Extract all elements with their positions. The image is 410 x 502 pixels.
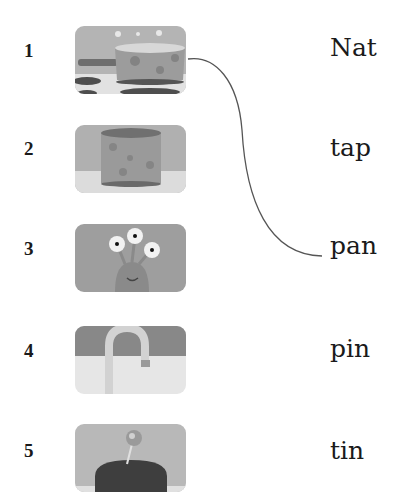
match-line-1-pan (0, 0, 410, 502)
